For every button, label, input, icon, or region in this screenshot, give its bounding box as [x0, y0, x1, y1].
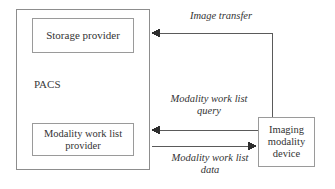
imaging-modality-device-box: Imaging modality device — [258, 117, 315, 167]
modality-work-list-query-arrowhead — [151, 126, 160, 135]
modality-work-list-query-label: Modality work list query — [154, 93, 264, 116]
image-transfer-arrowhead — [151, 29, 160, 38]
pacs-container: Storage provider PACS Modality work list… — [16, 9, 150, 170]
storage-provider-box: Storage provider — [32, 18, 134, 53]
modality-work-list-data-label: Modality work list data — [154, 152, 266, 175]
modality-work-list-provider-label: Modality work list provider — [33, 128, 133, 152]
modality-work-list-data-arrowhead — [248, 142, 257, 151]
image-transfer-label: Image transfer — [166, 10, 276, 22]
modality-work-list-provider-box: Modality work list provider — [32, 123, 134, 156]
diagram-canvas: Storage provider PACS Modality work list… — [0, 0, 335, 189]
storage-provider-label: Storage provider — [44, 29, 122, 41]
pacs-label: PACS — [34, 78, 61, 90]
imaging-modality-device-label: Imaging modality device — [259, 124, 314, 159]
